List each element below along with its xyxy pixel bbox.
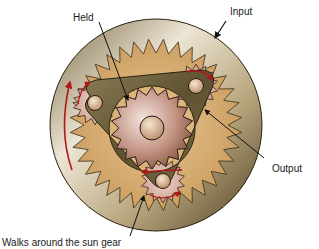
- sun-gear-hub: [140, 116, 164, 140]
- held-label: Held: [73, 12, 94, 23]
- carrier-pin-bottom: [156, 174, 171, 189]
- carrier-pin-left: [88, 96, 103, 111]
- input-label: Input: [230, 6, 252, 17]
- carrier-pin-right: [189, 79, 204, 94]
- input-leader-line: [215, 21, 226, 38]
- output-label: Output: [272, 163, 302, 174]
- planetary-gear-diagram: Held Input Output Walks around the sun g…: [0, 0, 319, 249]
- walks-around-label: Walks around the sun gear: [2, 237, 122, 248]
